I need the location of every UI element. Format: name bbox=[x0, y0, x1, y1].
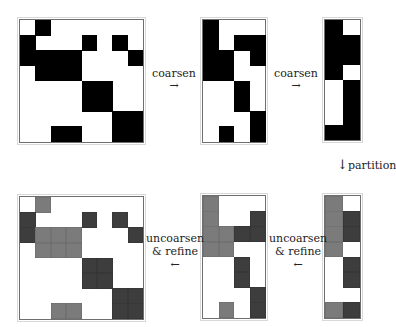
matrix-cell bbox=[250, 226, 266, 242]
matrix-cell bbox=[234, 257, 250, 273]
matrix-coarse-level-2 bbox=[324, 19, 361, 141]
matrix-cell bbox=[82, 35, 98, 51]
matrix-cell bbox=[219, 66, 235, 82]
matrix-cell bbox=[97, 258, 113, 274]
matrix-cell bbox=[51, 243, 67, 259]
matrix-cell bbox=[97, 273, 113, 289]
matrix-cell bbox=[112, 288, 128, 304]
arrow-right-icon: → bbox=[150, 80, 198, 91]
matrix-cell bbox=[234, 96, 250, 112]
matrix-cell bbox=[128, 50, 144, 66]
matrix-cell bbox=[128, 126, 144, 142]
matrix-cell bbox=[112, 111, 128, 127]
uncoarsen-text: uncoarsen bbox=[269, 233, 327, 244]
matrix-cell bbox=[97, 96, 113, 112]
matrix-cell bbox=[51, 303, 67, 319]
matrix-cell bbox=[325, 125, 343, 140]
matrix-cell bbox=[219, 126, 235, 142]
matrix-cell bbox=[343, 272, 361, 288]
matrix-cell bbox=[203, 66, 219, 82]
matrix-cell bbox=[219, 242, 235, 258]
matrix-cell bbox=[234, 272, 250, 288]
matrix-cell bbox=[234, 81, 250, 97]
matrix-cell bbox=[325, 242, 343, 258]
matrix-cell bbox=[97, 81, 113, 97]
uncoarsen-text: uncoarsen bbox=[146, 233, 204, 244]
uncoarsen-refine-label-0: uncoarsen & refine ← bbox=[146, 233, 204, 270]
matrix-cell bbox=[66, 66, 82, 82]
matrix-cell bbox=[343, 226, 361, 242]
matrix-cell bbox=[82, 212, 98, 228]
matrix-cell bbox=[250, 211, 266, 227]
matrix-cell bbox=[82, 81, 98, 97]
matrix-cell bbox=[343, 50, 361, 65]
matrix-cell bbox=[51, 66, 67, 82]
matrix-cell bbox=[203, 50, 219, 66]
matrix-cell bbox=[112, 35, 128, 51]
matrix-cell bbox=[203, 211, 219, 227]
refine-text: & refine bbox=[269, 246, 327, 257]
matrix-cell bbox=[20, 35, 36, 51]
matrix-cell bbox=[203, 196, 219, 212]
matrix-cell bbox=[343, 95, 361, 110]
matrix-cell bbox=[203, 20, 219, 36]
matrix-cell bbox=[112, 126, 128, 142]
matrix-cell bbox=[82, 273, 98, 289]
matrix-cell bbox=[66, 303, 82, 319]
matrix-cell bbox=[51, 227, 67, 243]
matrix-cell bbox=[343, 257, 361, 273]
arrow-left-icon: ← bbox=[146, 259, 204, 270]
matrix-cell bbox=[128, 303, 144, 319]
matrix-cell bbox=[128, 288, 144, 304]
matrix-cell bbox=[51, 126, 67, 142]
matrix-cell bbox=[203, 35, 219, 51]
matrix-cell bbox=[20, 50, 36, 66]
matrix-cell bbox=[343, 80, 361, 95]
matrix-coarse-level-1 bbox=[202, 19, 266, 143]
matrix-cell bbox=[325, 65, 343, 80]
matrix-cell bbox=[343, 110, 361, 125]
matrix-cell bbox=[66, 126, 82, 142]
matrix-cell bbox=[250, 302, 266, 318]
matrix-cell bbox=[234, 226, 250, 242]
matrix-cell bbox=[35, 20, 51, 36]
coarsen-label-2: coarsen → bbox=[272, 68, 320, 91]
matrix-cell bbox=[325, 302, 343, 318]
matrix-cell bbox=[35, 243, 51, 259]
arrow-left-icon: ← bbox=[269, 259, 327, 270]
matrix-refined-level-0 bbox=[19, 196, 144, 320]
coarsen-label-1: coarsen → bbox=[150, 68, 198, 91]
matrix-cell bbox=[250, 111, 266, 127]
refine-text: & refine bbox=[146, 246, 204, 257]
matrix-cell bbox=[128, 227, 144, 243]
uncoarsen-refine-label-1: uncoarsen & refine ← bbox=[269, 233, 327, 270]
matrix-cell bbox=[250, 35, 266, 51]
matrix-cell bbox=[219, 302, 235, 318]
matrix-cell bbox=[82, 258, 98, 274]
matrix-cell bbox=[203, 242, 219, 258]
matrix-cell bbox=[325, 226, 343, 242]
matrix-cell bbox=[20, 212, 36, 228]
matrix-cell bbox=[343, 125, 361, 140]
matrix-cell bbox=[51, 50, 67, 66]
matrix-cell bbox=[325, 50, 343, 65]
matrix-cell bbox=[325, 20, 343, 35]
matrix-cell bbox=[112, 303, 128, 319]
matrix-cell bbox=[203, 226, 219, 242]
matrix-cell bbox=[66, 243, 82, 259]
matrix-cell bbox=[325, 211, 343, 227]
matrix-cell bbox=[250, 126, 266, 142]
matrix-cell bbox=[35, 197, 51, 213]
matrix-refined-level-1 bbox=[202, 195, 266, 319]
matrix-cell bbox=[128, 111, 144, 127]
partition-label: ↓partition bbox=[337, 159, 396, 172]
matrix-cell bbox=[66, 50, 82, 66]
matrix-cell bbox=[343, 211, 361, 227]
partition-text: partition bbox=[348, 159, 396, 172]
matrix-cell bbox=[82, 96, 98, 112]
matrix-cell bbox=[219, 50, 235, 66]
arrow-right-icon: → bbox=[272, 80, 320, 91]
matrix-cell bbox=[20, 227, 36, 243]
matrix-cell bbox=[325, 35, 343, 50]
matrix-original bbox=[19, 19, 144, 143]
